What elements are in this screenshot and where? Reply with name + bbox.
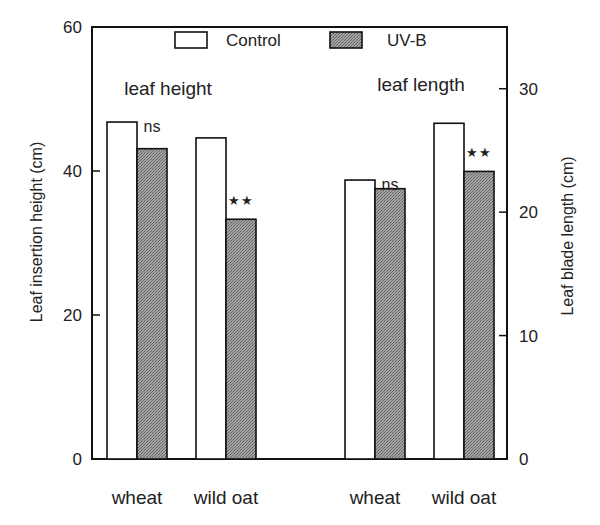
left-tick-label: 60 — [63, 18, 82, 37]
significance-label: ★★ — [228, 193, 254, 208]
bar-uvb — [226, 219, 256, 459]
legend-swatch-uvb — [330, 32, 362, 48]
left-axis-title: Leaf insertion height (cm) — [28, 142, 45, 323]
left-tick-label: 20 — [63, 306, 82, 325]
left-tick-label: 40 — [63, 162, 82, 181]
category-label: wild oat — [193, 487, 259, 508]
right-tick-label: 20 — [519, 203, 538, 222]
bar-control — [434, 123, 464, 459]
left-tick-label: 0 — [73, 450, 82, 469]
panel-label-leaf-length: leaf length — [377, 74, 465, 95]
category-label: wild oat — [431, 487, 497, 508]
category-label: wheat — [349, 487, 401, 508]
legend-label: Control — [226, 31, 281, 50]
significance-label: ns — [382, 176, 399, 193]
right-tick-label: 30 — [519, 80, 538, 99]
right-tick-label: 10 — [519, 327, 538, 346]
panel-labels: leaf heightleaf length — [124, 74, 465, 99]
significance-label: ns — [144, 118, 161, 135]
legend-label: UV-B — [387, 31, 427, 50]
left-y-axis: 0204060Leaf insertion height (cm) — [28, 18, 100, 469]
bar-uvb — [137, 149, 167, 459]
right-axis-title: Leaf blade length (cm) — [559, 156, 576, 315]
bar-chart: 0204060Leaf insertion height (cm) 010203… — [0, 0, 600, 525]
bars — [107, 122, 494, 459]
bar-uvb — [464, 171, 494, 459]
bar-control — [196, 138, 226, 459]
right-tick-label: 0 — [519, 450, 528, 469]
significance-label: ★★ — [466, 145, 492, 160]
category-labels: wheatwild oatwheatwild oat — [111, 487, 497, 508]
bar-control — [345, 180, 375, 459]
bar-control — [107, 122, 137, 459]
right-y-axis: 0102030Leaf blade length (cm) — [499, 80, 576, 469]
category-label: wheat — [111, 487, 163, 508]
bar-uvb — [375, 189, 405, 459]
panel-label-leaf-height: leaf height — [124, 78, 212, 99]
legend-swatch-control — [175, 32, 207, 48]
legend: ControlUV-B — [175, 31, 427, 50]
